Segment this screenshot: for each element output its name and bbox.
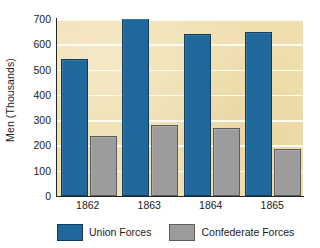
plot-area — [57, 19, 303, 196]
bar-chart: Men (Thousands) 0100200300400500600700 1… — [0, 0, 320, 248]
y-axis-line — [56, 18, 57, 197]
legend-label: Union Forces — [89, 226, 151, 238]
bar-1864-union — [184, 34, 211, 196]
y-axis-tick-label: 0 — [45, 190, 51, 202]
bar-1862-confederate — [90, 136, 117, 196]
x-axis-tick-label: 1864 — [199, 199, 222, 211]
y-axis-tick-label: 600 — [33, 38, 51, 50]
chart-legend: Union ForcesConfederate Forces — [57, 221, 307, 243]
bar-1865-confederate — [274, 149, 301, 196]
x-axis-tick-label: 1863 — [138, 199, 161, 211]
legend-entry-confederate[interactable]: Confederate Forces — [169, 224, 294, 241]
x-axis-tick-labels: 1862186318641865 — [57, 199, 303, 215]
y-axis-title-text: Men (Thousands) — [4, 58, 16, 142]
x-axis-line — [56, 196, 304, 197]
y-axis-tick-label: 100 — [33, 165, 51, 177]
bar-1864-confederate — [213, 128, 240, 196]
y-axis-title: Men (Thousands) — [0, 0, 20, 200]
union-color-swatch — [57, 224, 83, 241]
y-axis-tick-label: 700 — [33, 13, 51, 25]
bar-1865-union — [245, 32, 272, 196]
y-axis-tick-label: 200 — [33, 139, 51, 151]
gridline — [57, 19, 303, 21]
bar-1862-union — [61, 59, 88, 196]
bar-1863-union — [122, 19, 149, 196]
x-axis-tick-label: 1865 — [261, 199, 284, 211]
confederate-color-swatch — [169, 224, 195, 241]
y-axis-tick-label: 500 — [33, 64, 51, 76]
legend-label: Confederate Forces — [201, 226, 294, 238]
bar-1863-confederate — [151, 125, 178, 196]
x-axis-tick-label: 1862 — [76, 199, 99, 211]
legend-entry-union[interactable]: Union Forces — [57, 224, 151, 241]
y-axis-tick-label: 300 — [33, 114, 51, 126]
y-axis-tick-label: 400 — [33, 89, 51, 101]
y-axis-tick-labels: 0100200300400500600700 — [19, 0, 55, 200]
